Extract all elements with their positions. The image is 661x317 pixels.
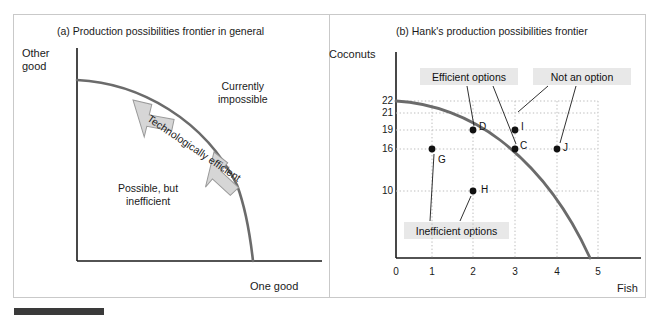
data-point-H: [470, 188, 477, 195]
data-point-I: [512, 127, 519, 134]
y-tick-10: 10: [375, 185, 393, 196]
x-tick-4: 4: [550, 266, 564, 277]
x-tick-3: 3: [508, 266, 522, 277]
panel-b-gridlines: [396, 101, 598, 258]
y-tick-21: 21: [375, 107, 393, 118]
panel-b-frontier-curve: [396, 101, 590, 258]
x-tick-1: 1: [425, 266, 439, 277]
point-label-J: J: [563, 142, 568, 153]
data-point-G: [429, 146, 436, 153]
point-label-G: G: [438, 154, 446, 165]
point-label-I: I: [521, 121, 524, 132]
point-label-C: C: [520, 140, 527, 151]
y-tick-22: 22: [375, 95, 393, 106]
figure-root: (a) Production possibilities frontier in…: [0, 0, 661, 317]
panel-b-leader-lines: [430, 86, 576, 221]
y-tick-16: 16: [375, 143, 393, 154]
data-point-D: [470, 127, 477, 134]
point-label-H: H: [481, 184, 488, 195]
x-tick-2: 2: [466, 266, 480, 277]
y-tick-19: 19: [375, 124, 393, 135]
x-tick-5: 5: [591, 266, 605, 277]
data-point-C: [512, 146, 519, 153]
point-label-D: D: [479, 121, 486, 132]
x-tick-0: 0: [389, 266, 403, 277]
data-point-J: [554, 146, 561, 153]
